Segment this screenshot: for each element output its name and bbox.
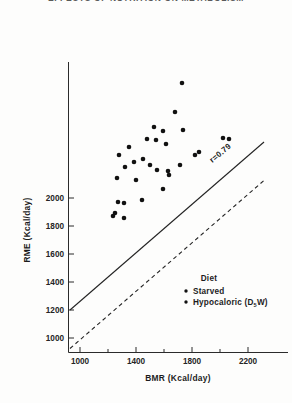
y-tick-label: 1200 — [46, 306, 65, 315]
legend: Diet Starved Hypocaloric (D5W) — [184, 274, 268, 308]
data-point — [178, 163, 183, 168]
data-point — [193, 153, 198, 158]
scatter-plot: 1000 1200 1400 1600 1800 2000 1000 1400 … — [0, 0, 292, 403]
data-point — [117, 153, 122, 158]
data-point — [161, 187, 166, 192]
data-point — [167, 173, 172, 178]
data-point — [155, 168, 160, 173]
data-point — [181, 128, 186, 133]
x-axis-tick-labels: 1000 1400 1800 2200 — [71, 357, 258, 366]
x-tick-label: 1000 — [71, 357, 90, 366]
regression-line — [70, 142, 264, 310]
series-hypocaloric-points — [122, 136, 232, 221]
data-point — [161, 129, 166, 134]
identity-reference-line — [70, 181, 264, 349]
x-tick-label: 1800 — [183, 357, 202, 366]
data-point — [197, 150, 202, 155]
x-axis-ticks — [80, 347, 248, 353]
data-point — [134, 178, 139, 183]
data-point — [111, 214, 116, 219]
y-tick-label: 1800 — [46, 222, 65, 231]
data-point — [122, 201, 127, 206]
data-point — [141, 157, 146, 162]
y-tick-label: 1400 — [46, 278, 65, 287]
x-tick-label: 2200 — [239, 357, 258, 366]
y-tick-label: 1000 — [46, 334, 65, 343]
data-point — [116, 200, 121, 205]
figure-panel: EFFECTS OF NUTRITION ON METABOLISM 10 — [0, 0, 292, 403]
data-point — [154, 138, 159, 143]
data-point — [148, 163, 153, 168]
legend-label-hypocaloric: Hypocaloric (D5W) — [193, 298, 268, 308]
y-tick-label: 2000 — [46, 194, 65, 203]
data-point — [127, 145, 132, 150]
data-point — [152, 125, 157, 130]
data-point — [180, 81, 185, 86]
y-tick-label: 1600 — [46, 250, 65, 259]
legend-title: Diet — [201, 274, 218, 283]
legend-marker-hypocaloric — [184, 300, 187, 303]
data-point — [115, 176, 120, 181]
correlation-annotation: r=0.79 — [208, 141, 233, 164]
data-point — [140, 198, 145, 203]
y-axis-title: RME (Kcal/day) — [22, 197, 32, 262]
series-starved-points — [111, 81, 186, 219]
data-point — [166, 169, 171, 174]
data-point — [173, 110, 178, 115]
data-point — [221, 136, 226, 141]
x-axis-title: BMR (Kcal/day) — [145, 373, 211, 383]
y-axis-tick-labels: 1000 1200 1400 1600 1800 2000 — [46, 194, 65, 343]
data-point — [227, 137, 232, 142]
y-axis-ticks — [69, 198, 75, 338]
data-point — [164, 142, 169, 147]
data-point — [132, 160, 137, 165]
legend-marker-starved — [184, 289, 187, 292]
data-point — [145, 137, 150, 142]
data-point — [123, 165, 128, 170]
x-tick-label: 1400 — [127, 357, 146, 366]
legend-label-starved: Starved — [193, 287, 224, 296]
data-point — [122, 216, 127, 221]
